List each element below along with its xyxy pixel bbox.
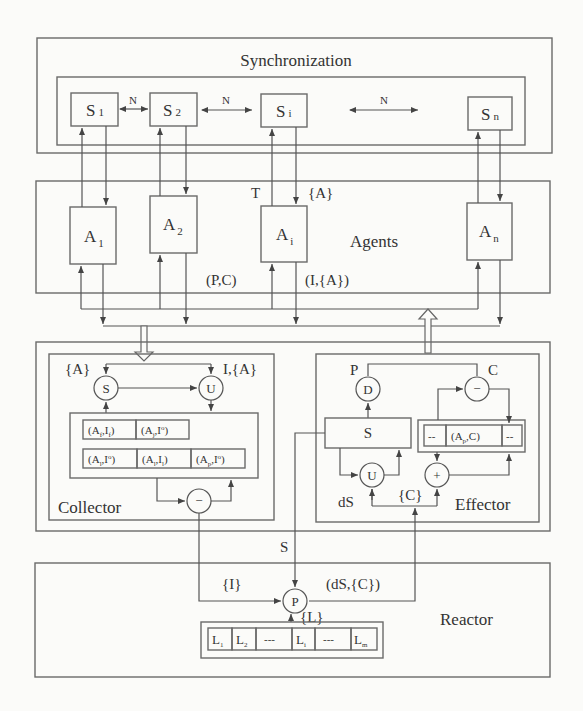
union-operator[interactable]: U	[199, 376, 223, 400]
agent-node-a2[interactable]: A2	[150, 196, 197, 253]
effector-minus-operator[interactable]: −	[465, 377, 489, 401]
svg-text:Li: Li	[296, 632, 306, 649]
svg-text:−: −	[473, 381, 480, 396]
label-I-set: {I}	[222, 576, 241, 592]
svg-text:P: P	[291, 594, 298, 609]
agent-node-ai[interactable]: Ai	[261, 206, 307, 262]
svg-text:U: U	[206, 381, 216, 396]
svg-text:(Ap,C): (Ap,C)	[451, 430, 480, 445]
sync-node-s1[interactable]: S1	[71, 93, 118, 126]
svg-text:−: −	[195, 493, 202, 508]
svg-text:S1: S1	[86, 101, 104, 120]
label-I-A: (I,{A})	[305, 272, 349, 289]
label-agent-set: {A}	[308, 185, 333, 201]
svg-text:A1: A1	[84, 227, 104, 249]
label-C-set: {C}	[398, 487, 422, 503]
decide-operator[interactable]: D	[356, 377, 380, 401]
label-P-C: (P,C)	[206, 272, 236, 289]
svg-text:S: S	[364, 425, 372, 441]
svg-text:Lm: Lm	[354, 632, 368, 649]
collector-module: {A} I,{A} Collector S U (Af,If) (Aj,Io) …	[49, 354, 274, 520]
synchronization-layer: Synchronization S1 S2 Si Sn N N N	[37, 38, 552, 153]
label-S: S	[280, 539, 288, 555]
svg-text:(Al,Io): (Al,Io)	[88, 453, 116, 468]
architecture-diagram: Synchronization S1 S2 Si Sn N N N Agents…	[0, 0, 583, 711]
label-dS: dS	[338, 494, 354, 510]
effector-module: Effector P C D − S -- (Ap,C) -- U	[316, 354, 539, 522]
svg-text:Sn: Sn	[481, 105, 499, 124]
label-T: T	[251, 185, 260, 201]
svg-text:U: U	[367, 468, 377, 483]
svg-text:+: +	[433, 468, 440, 483]
svg-text:--: --	[506, 430, 514, 442]
svg-text:S2: S2	[163, 101, 181, 120]
minus-operator[interactable]: −	[187, 489, 211, 513]
sync-node-si[interactable]: Si	[261, 94, 307, 127]
agents-title: Agents	[350, 232, 398, 251]
agents-layer: Agents T {A} (P,C) (I,{A}) A1 A2 Ai An	[36, 126, 550, 326]
svg-text:D: D	[363, 382, 372, 397]
svg-text:--: --	[428, 430, 436, 442]
svg-text:(Aj,Io): (Aj,Io)	[141, 424, 169, 439]
bus-to-collector-arrow	[135, 326, 153, 361]
sync-link-label: N	[222, 94, 230, 106]
agent-node-a1[interactable]: A1	[70, 207, 116, 264]
svg-text:An: An	[479, 222, 499, 244]
svg-text:---: ---	[323, 633, 334, 645]
collector-title: Collector	[58, 498, 122, 517]
svg-text:L1: L1	[212, 632, 224, 649]
sync-link-label: N	[380, 94, 388, 106]
reactor-layer: Reactor S {I} (dS,{C}) P {L} L1 L2 --- L…	[35, 433, 550, 677]
effector-title: Effector	[455, 495, 511, 514]
label-agent-set: {A}	[65, 361, 90, 377]
synchronization-title: Synchronization	[240, 51, 352, 70]
svg-text:Si: Si	[276, 102, 292, 121]
svg-text:A2: A2	[163, 215, 183, 237]
label-P: P	[350, 362, 358, 378]
reactor-title: Reactor	[440, 610, 493, 629]
svg-text:---: ---	[264, 633, 275, 645]
svg-text:(Af,If): (Af,If)	[88, 424, 115, 439]
sync-node-s2[interactable]: S2	[150, 93, 197, 126]
plus-operator[interactable]: +	[425, 463, 449, 487]
svg-text:S: S	[102, 381, 109, 396]
label-dS-C: (dS,{C})	[326, 576, 380, 593]
svg-text:(Ap,Io): (Ap,Io)	[196, 453, 225, 468]
sync-link-label: N	[129, 94, 137, 106]
select-operator[interactable]: S	[94, 376, 118, 400]
effector-union-operator[interactable]: U	[360, 463, 384, 487]
label-C: C	[488, 362, 498, 378]
svg-text:L2: L2	[236, 632, 248, 649]
effector-to-bus-arrow	[419, 309, 437, 353]
svg-text:Ai: Ai	[276, 225, 293, 247]
agent-node-an[interactable]: An	[467, 203, 512, 260]
sync-node-sn[interactable]: Sn	[468, 97, 512, 130]
label-I-agent-set: I,{A}	[223, 361, 257, 377]
svg-text:(Al,Il): (Al,Il)	[142, 453, 168, 468]
